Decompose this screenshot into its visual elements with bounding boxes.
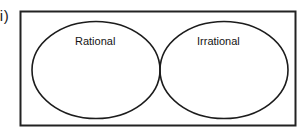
set-label-rational: Rational (75, 35, 115, 47)
set-label-irrational: Irrational (197, 35, 240, 47)
venn-diagram-canvas (0, 0, 305, 134)
venn-diagram-figure: ii) Rational Irrational (0, 0, 305, 134)
